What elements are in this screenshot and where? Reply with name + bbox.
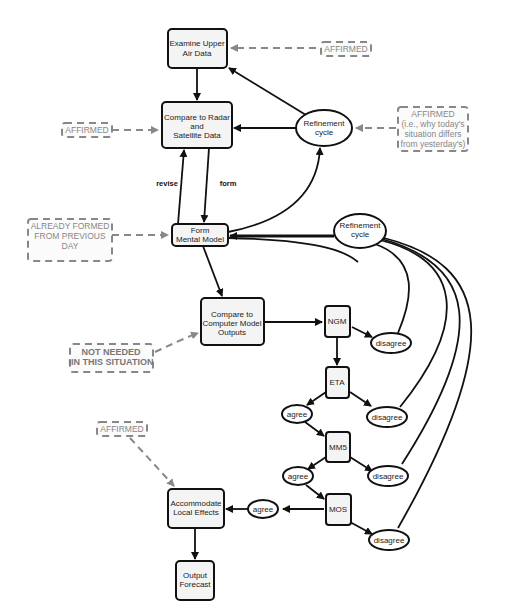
svg-text:Output: Output — [183, 571, 208, 580]
node-eta: ETA — [326, 367, 349, 398]
edge-eta-to-disagree — [350, 392, 371, 406]
node-form-mental-model: Form Mental Model — [172, 224, 228, 246]
annotation-affirmed-upper-air: AFFIRMED — [321, 42, 371, 56]
edge-revise — [178, 150, 184, 224]
node-disagree-ngm: disagree — [371, 333, 411, 353]
annotation-connectors — [112, 48, 396, 486]
svg-text:Satellite Data: Satellite Data — [173, 131, 221, 140]
edge-agree-to-mos — [306, 485, 324, 499]
svg-text:Air Data: Air Data — [183, 49, 212, 58]
edge-mm5-to-agree — [308, 457, 326, 469]
node-agree-mos: agree — [248, 500, 278, 518]
svg-text:agree: agree — [288, 472, 309, 481]
annotation-not-needed: NOT NEEDED IIN THIS SITUATION — [69, 344, 154, 372]
svg-text:situation differs: situation differs — [404, 129, 461, 139]
svg-text:ETA: ETA — [330, 378, 346, 387]
svg-text:AFFIRMED: AFFIRMED — [411, 109, 454, 119]
svg-text:NGM: NGM — [328, 317, 347, 326]
annotation-already-formed: ALREADY FORMED FROM PREVIOUS DAY — [28, 219, 112, 261]
node-compare-radar-satellite: Compare to Radar and Satellite Data — [162, 102, 232, 148]
edge-label-revise: revise — [156, 179, 178, 188]
node-ngm: NGM — [325, 306, 350, 337]
svg-text:cycle: cycle — [315, 128, 334, 137]
svg-text:IIN THIS SITUATION: IIN THIS SITUATION — [69, 357, 154, 367]
svg-text:MM5: MM5 — [329, 443, 347, 452]
edge-ngm-to-disagree — [352, 327, 372, 337]
edge-mos-to-disagree — [350, 522, 372, 534]
annotation-affirmed-radar: AFFIRMED — [62, 123, 112, 137]
edge-mental-to-computer — [203, 246, 222, 296]
edge-eta-to-agree — [307, 392, 326, 405]
svg-text:and: and — [190, 122, 203, 131]
svg-text:Form: Form — [191, 226, 210, 235]
edge-mm5-to-disagree — [350, 457, 372, 471]
edge-mental-to-refinement — [228, 148, 320, 232]
svg-text:Compare to: Compare to — [211, 310, 253, 319]
svg-text:Refinement: Refinement — [304, 119, 346, 128]
connector-affirmed-local — [130, 438, 174, 486]
edge-label-form: form — [220, 179, 237, 188]
node-mm5: MM5 — [326, 432, 350, 462]
svg-text:Compare to Radar: Compare to Radar — [164, 113, 230, 122]
edge-refinement-to-examine — [229, 68, 306, 115]
svg-text:FROM PREVIOUS: FROM PREVIOUS — [34, 231, 106, 241]
svg-text:disagree: disagree — [373, 472, 404, 481]
node-accommodate-local-effects: Accommodate Local Effects — [168, 489, 224, 528]
annotation-affirmed-refinement: AFFIRMED (i.e., why today's situation di… — [398, 107, 468, 151]
svg-text:NOT NEEDED: NOT NEEDED — [81, 347, 141, 357]
svg-text:Examine Upper: Examine Upper — [169, 39, 224, 48]
svg-text:disagree: disagree — [372, 413, 403, 422]
connector-not-needed — [155, 333, 198, 352]
svg-text:DAY: DAY — [62, 241, 79, 251]
node-agree-mm5: agree — [283, 467, 313, 485]
node-examine-upper-air: Examine Upper Air Data — [168, 29, 227, 68]
svg-text:(i.e., why today's: (i.e., why today's — [401, 119, 464, 129]
edge-refinement2-disagree-ngm — [375, 244, 409, 333]
node-refinement-cycle-1: Refinement cycle — [296, 110, 352, 146]
svg-text:disagree: disagree — [376, 339, 407, 348]
svg-text:disagree: disagree — [374, 536, 405, 545]
forecasting-process-diagram: revise form Examine Upper Air Data Compa… — [0, 0, 508, 616]
annotation-affirmed-local: AFFIRMED — [97, 422, 147, 436]
node-disagree-mos: disagree — [369, 530, 409, 550]
node-agree-eta: agree — [282, 405, 312, 423]
svg-text:Accommodate: Accommodate — [170, 499, 222, 508]
svg-text:AFFIRMED: AFFIRMED — [100, 424, 143, 434]
node-disagree-mm5: disagree — [368, 466, 408, 486]
svg-text:cycle: cycle — [351, 230, 370, 239]
edge-refinement2-disagree-eta — [380, 240, 447, 407]
svg-text:ALREADY FORMED: ALREADY FORMED — [31, 221, 110, 231]
node-disagree-eta: disagree — [367, 407, 407, 427]
svg-text:from yesterday's): from yesterday's) — [401, 139, 466, 149]
svg-text:Local Effects: Local Effects — [173, 508, 219, 517]
svg-text:Refinement: Refinement — [340, 221, 382, 230]
svg-text:Forecast: Forecast — [179, 580, 211, 589]
svg-text:agree: agree — [253, 505, 274, 514]
edge-form — [204, 148, 209, 222]
svg-text:Mental Model: Mental Model — [176, 235, 224, 244]
svg-text:MOS: MOS — [329, 505, 347, 514]
svg-text:agree: agree — [287, 410, 308, 419]
edge-agree-to-mm5 — [305, 422, 324, 436]
node-output-forecast: Output Forecast — [176, 561, 214, 600]
svg-text:AFFIRMED: AFFIRMED — [65, 125, 108, 135]
svg-text:Outputs: Outputs — [218, 328, 246, 337]
svg-text:AFFIRMED: AFFIRMED — [324, 44, 367, 54]
node-mos: MOS — [326, 494, 351, 525]
svg-text:Computer Model: Computer Model — [202, 319, 261, 328]
node-compare-computer-model: Compare to Computer Model Outputs — [201, 298, 264, 345]
node-refinement-cycle-2: Refinement cycle — [334, 214, 386, 248]
